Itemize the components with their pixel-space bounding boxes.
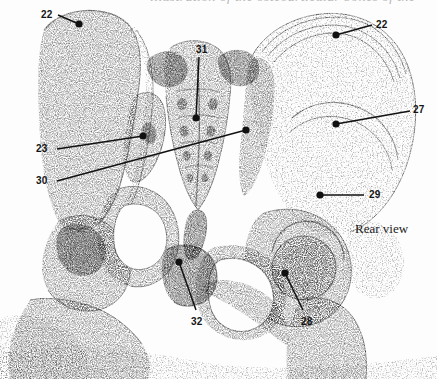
leader-27 [332, 111, 410, 128]
callout-label-30: 30 [36, 176, 48, 186]
leader-28 [281, 269, 303, 310]
leader-group [57, 15, 410, 310]
callout-label-22-right: 22 [376, 20, 388, 30]
callout-label-22-left: 22 [41, 10, 53, 20]
leader-29 [316, 191, 364, 198]
callout-label-31: 31 [196, 45, 208, 55]
leader-31 [192, 57, 199, 122]
callout-label-29: 29 [369, 190, 381, 200]
callout-label-23: 23 [36, 144, 48, 154]
callout-label-28: 28 [301, 317, 313, 327]
leader-23 [57, 132, 147, 149]
view-caption: Rear view [355, 221, 408, 237]
leader-22-left [58, 15, 83, 28]
leader-30 [57, 126, 250, 181]
leader-22-right [332, 25, 372, 39]
callout-overlay: 22 22 31 27 23 30 29 28 32 Rear view [0, 0, 437, 379]
callout-label-32: 32 [191, 317, 203, 327]
leader-32 [175, 258, 196, 310]
callout-label-27: 27 [413, 105, 425, 115]
anatomical-plate-page: illustration of the osteoarticular bones… [0, 0, 437, 379]
